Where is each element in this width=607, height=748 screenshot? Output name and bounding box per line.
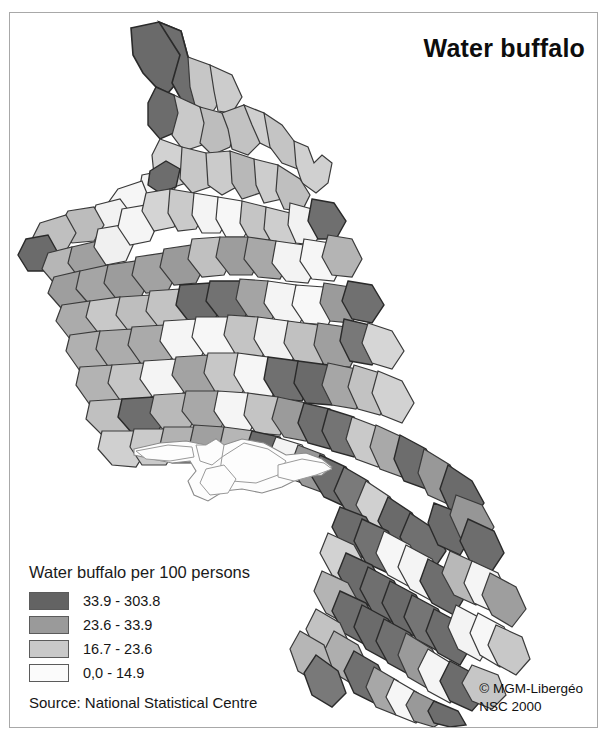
legend-label-class-1: 33.9 - 303.8 xyxy=(83,593,160,609)
legend-item: 0,0 - 14.9 xyxy=(29,661,329,685)
legend-source: Source: National Statistical Centre xyxy=(29,694,329,711)
credits-line-2: NSC 2000 xyxy=(479,698,583,716)
legend-label-class-4: 0,0 - 14.9 xyxy=(83,665,144,681)
legend-swatch-class-3 xyxy=(29,640,69,658)
legend-swatch-class-1 xyxy=(29,592,69,610)
district-polygon xyxy=(372,371,414,423)
legend-item: 23.6 - 33.9 xyxy=(29,613,329,637)
legend-item: 16.7 - 23.6 xyxy=(29,637,329,661)
credits-line-1: © MGM-Libergéo xyxy=(479,680,583,698)
legend-item: 33.9 - 303.8 xyxy=(29,589,329,613)
legend-label-class-3: 16.7 - 23.6 xyxy=(83,641,152,657)
map-figure: Water buffalo xyxy=(0,0,607,748)
legend-swatch-class-2 xyxy=(29,616,69,634)
legend-swatch-class-4 xyxy=(29,664,69,682)
district-polygon xyxy=(488,625,530,675)
map-credits: © MGM-Libergéo NSC 2000 xyxy=(479,680,583,716)
legend-label-class-2: 23.6 - 33.9 xyxy=(83,617,152,633)
legend-title: Water buffalo per 100 persons xyxy=(29,563,329,582)
map-legend: Water buffalo per 100 persons 33.9 - 303… xyxy=(29,563,329,711)
